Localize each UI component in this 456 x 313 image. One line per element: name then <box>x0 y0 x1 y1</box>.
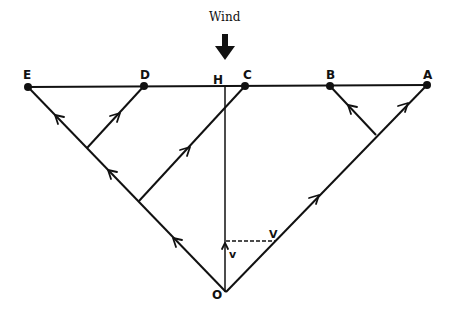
top-line-EA <box>28 85 427 87</box>
point-H-label: H <box>213 73 223 87</box>
branch-to-B <box>330 86 376 135</box>
point-B-dot <box>326 82 334 90</box>
point-A-label: A <box>423 68 433 82</box>
point-D-dot <box>140 82 148 90</box>
point-D-label: D <box>140 68 150 82</box>
point-E-label: E <box>23 68 31 82</box>
point-C-dot <box>241 82 249 90</box>
point-A-dot <box>423 81 431 89</box>
small-v-label: v <box>229 248 237 261</box>
wind-label: Wind <box>209 10 241 24</box>
point-B-label: B <box>326 68 335 82</box>
point-E-dot <box>24 83 32 91</box>
branch-to-C <box>139 86 245 201</box>
wind-triangle-diagram: Wind E D H C B A O v V <box>0 0 456 313</box>
line-OE <box>28 87 226 292</box>
branch-to-D <box>87 86 144 148</box>
wind-arrow-icon <box>215 34 235 60</box>
large-V-label: V <box>269 228 278 241</box>
line-OA <box>226 85 427 292</box>
point-C-label: C <box>243 68 252 82</box>
point-O-label: O <box>212 288 222 302</box>
